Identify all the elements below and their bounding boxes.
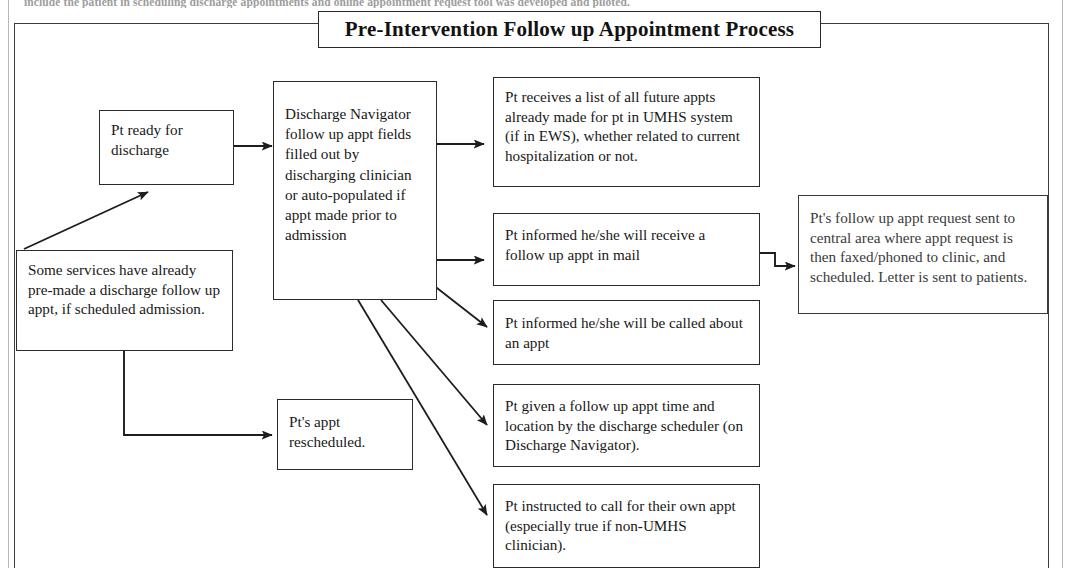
- diagram-page: include the patient in scheduling discha…: [0, 0, 1072, 568]
- cut-off-header-text: include the patient in scheduling discha…: [24, 0, 1044, 8]
- page-title: Pre-Intervention Follow up Appointment P…: [345, 17, 794, 42]
- node-pt-request-sent-central: Pt's follow up appt request sent to cent…: [798, 195, 1048, 314]
- node-pt-informed-mail: Pt informed he/she will receive a follow…: [493, 213, 760, 286]
- node-pt-ready-for-discharge: Pt ready for discharge: [99, 110, 234, 185]
- page-margin-rule-left: [8, 0, 9, 568]
- node-discharge-navigator-fields: Discharge Navigator follow up appt field…: [273, 81, 437, 300]
- node-pt-informed-called: Pt informed he/she will be called about …: [493, 300, 760, 365]
- node-pt-instructed-to-call: Pt instructed to call for their own appt…: [493, 484, 760, 568]
- node-pt-given-time-location: Pt given a follow up appt time and locat…: [493, 384, 760, 467]
- diagram-title-banner: Pre-Intervention Follow up Appointment P…: [318, 11, 821, 48]
- node-some-services-pre-made: Some services have already pre-made a di…: [16, 250, 233, 351]
- page-margin-rule-right: [1062, 0, 1063, 568]
- node-pt-appt-rescheduled: Pt's appt rescheduled.: [277, 399, 413, 470]
- node-pt-receives-list: Pt receives a list of all future appts a…: [493, 77, 760, 187]
